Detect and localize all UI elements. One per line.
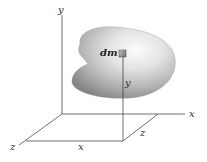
side-z-label: z — [139, 127, 146, 138]
rigid-body-shape — [72, 27, 175, 99]
x-axis-label: x — [189, 108, 195, 119]
z-axis — [19, 114, 62, 145]
y-axis-label: y — [57, 4, 64, 15]
mass-element-cube — [119, 50, 126, 57]
z-axis-label: z — [9, 141, 16, 152]
mass-element-diagram: y x z dm y x z — [0, 0, 207, 162]
dm-label: dm — [100, 47, 118, 58]
vertical-y-label: y — [124, 77, 131, 88]
bottom-x-label: x — [78, 141, 84, 152]
